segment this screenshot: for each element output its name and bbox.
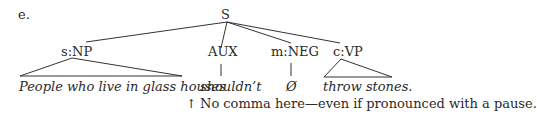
node-aux: AUX (208, 45, 238, 59)
node-s-np: s:NP (61, 45, 92, 59)
node-m-neg: m:NEG (271, 45, 319, 59)
leaf-aux-text: shouldn’t (200, 80, 261, 94)
node-c-vp: c:VP (333, 45, 363, 59)
leaf-vp-text: throw stones. (323, 80, 413, 94)
example-label: e. (18, 8, 30, 22)
node-s: S (221, 8, 230, 22)
arrow-up-icon: ↑ (186, 97, 196, 111)
note-text: No comma here—even if pronounced with a … (200, 97, 537, 111)
leaf-neg-text: Ø (286, 80, 297, 94)
leaf-np-text: People who live in glass houses (19, 80, 226, 94)
